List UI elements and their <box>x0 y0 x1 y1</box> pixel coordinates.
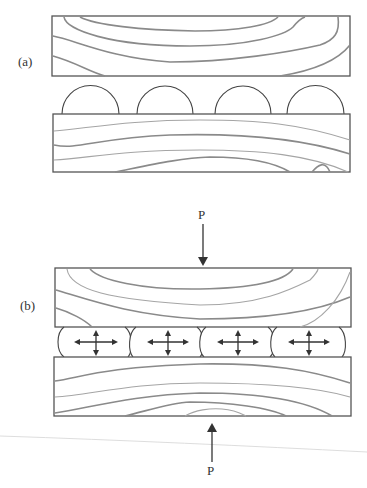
load-arrow-bottom <box>207 423 217 462</box>
flattened-bump-3 <box>200 327 275 357</box>
compression-diagram <box>0 0 367 488</box>
panel-a <box>52 16 350 172</box>
flattened-bump-4 <box>271 327 346 357</box>
panel-b-flattened-bumps <box>58 327 345 357</box>
panel-b-label: (b) <box>20 298 35 314</box>
load-label-bottom: P <box>207 463 214 479</box>
panel-b <box>54 224 351 462</box>
flattened-bump-2 <box>130 327 204 357</box>
panel-a-bumps <box>62 86 344 115</box>
bump-4 <box>287 86 344 115</box>
scan-artifact-line <box>0 436 367 452</box>
load-arrow-top <box>198 224 208 266</box>
bump-2 <box>137 86 193 114</box>
bump-3 <box>215 86 271 114</box>
panel-b-bottom-block <box>54 357 351 416</box>
panel-a-top-block <box>52 16 350 76</box>
panel-a-label: (a) <box>18 54 32 70</box>
flattened-bump-1 <box>58 327 131 357</box>
bump-1 <box>62 86 119 114</box>
load-label-top: P <box>198 207 205 223</box>
panel-b-top-block <box>55 268 351 327</box>
panel-a-bottom-block <box>53 114 350 172</box>
